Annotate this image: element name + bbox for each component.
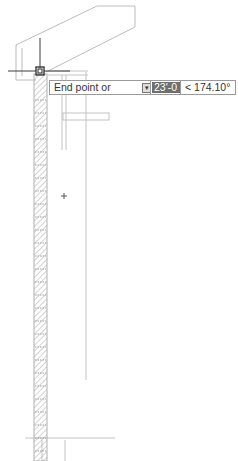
prompt-label: End point or: [54, 81, 111, 94]
drawing-canvas[interactable]: [0, 0, 238, 461]
roof-outline: [16, 6, 135, 80]
brick-wall: [34, 74, 47, 461]
dynamic-input-prompt: End point or ▾: [49, 80, 157, 95]
angle-value[interactable]: < 174.10°: [185, 81, 230, 93]
angle-input[interactable]: < 174.10°: [180, 80, 236, 95]
crosshair-cursor: [8, 38, 70, 75]
snap-cross-icon: [61, 193, 67, 199]
